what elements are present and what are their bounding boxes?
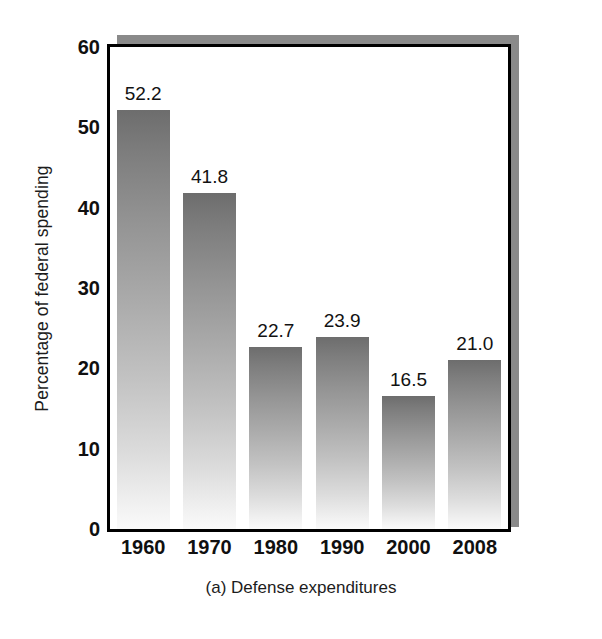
- bar: [448, 360, 501, 529]
- y-axis-tick-label: 20: [4, 358, 100, 378]
- y-axis-tick-labels: 0102030405060: [0, 0, 100, 639]
- bar: [316, 337, 369, 529]
- y-axis-tick-label: 40: [4, 198, 100, 218]
- figure-defense-expenditures: Percentage of federal spending 010203040…: [0, 0, 602, 639]
- bar-value-label: 23.9: [304, 311, 381, 330]
- y-axis-tick-label: 0: [4, 519, 100, 539]
- bar: [183, 193, 236, 529]
- bar-value-label: 52.2: [105, 84, 182, 103]
- bar-value-label: 21.0: [436, 334, 513, 353]
- plot-area: [110, 47, 508, 529]
- y-axis-tick-label: 10: [4, 439, 100, 459]
- bar-value-label: 41.8: [171, 167, 248, 186]
- bar-value-label: 16.5: [370, 370, 447, 389]
- x-axis-tick-label: 2008: [434, 537, 515, 557]
- y-axis-tick-label: 30: [4, 278, 100, 298]
- figure-caption: (a) Defense expenditures: [0, 578, 602, 598]
- bar: [117, 110, 170, 529]
- bar: [382, 396, 435, 529]
- y-axis-tick-label: 50: [4, 117, 100, 137]
- y-axis-tick-label: 60: [4, 37, 100, 57]
- bar: [249, 347, 302, 529]
